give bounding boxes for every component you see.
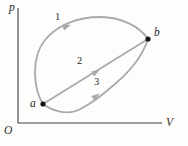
path-1-label: 1 bbox=[55, 11, 60, 22]
pv-diagram-canvas: p V O a b 1 2 3 bbox=[0, 0, 188, 146]
pv-diagram-figure: p V O a b 1 2 3 bbox=[0, 0, 188, 146]
p-axis-label: p bbox=[8, 1, 15, 14]
v-axis-label: V bbox=[166, 116, 175, 128]
path-2-label: 2 bbox=[77, 55, 82, 66]
process-path-1-curve bbox=[35, 17, 148, 104]
point-b-label: b bbox=[154, 26, 160, 38]
state-point-a bbox=[40, 101, 45, 106]
state-point-b bbox=[145, 36, 150, 41]
path-3-label: 3 bbox=[94, 76, 99, 87]
point-a-label: a bbox=[30, 97, 36, 109]
origin-label: O bbox=[4, 124, 13, 136]
